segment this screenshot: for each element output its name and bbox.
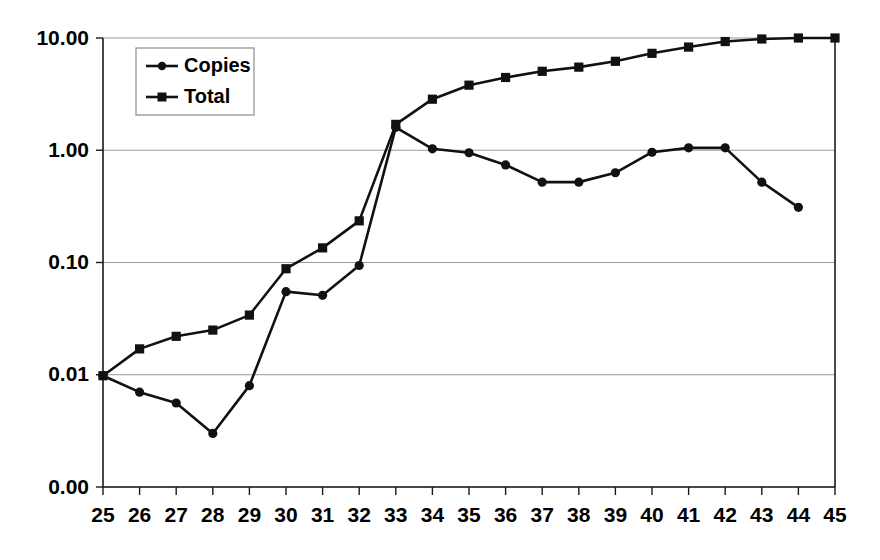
data-point-total-39 — [611, 57, 620, 66]
legend-label-copies: Copies — [184, 54, 251, 76]
x-tick-label-28: 28 — [201, 503, 225, 526]
x-tick-label-40: 40 — [640, 503, 663, 526]
data-point-total-37 — [538, 67, 547, 76]
x-tick-label-42: 42 — [714, 503, 737, 526]
data-point-total-27 — [172, 332, 181, 341]
data-point-total-36 — [501, 73, 510, 82]
data-point-copies-39 — [611, 168, 620, 177]
chart-legend: Copies Total — [136, 48, 254, 115]
data-point-copies-32 — [355, 261, 364, 270]
x-tick-label-31: 31 — [311, 503, 335, 526]
data-point-copies-34 — [428, 144, 437, 153]
y-tick-label-10.00: 10.00 — [36, 26, 89, 49]
x-tick-label-37: 37 — [531, 503, 554, 526]
x-tick-label-36: 36 — [494, 503, 517, 526]
data-point-copies-44 — [794, 203, 803, 212]
data-point-total-35 — [464, 81, 473, 90]
x-tick-label-45: 45 — [823, 503, 847, 526]
data-point-copies-29 — [245, 381, 254, 390]
data-point-copies-40 — [647, 148, 656, 157]
data-point-total-25 — [98, 371, 107, 380]
data-point-copies-38 — [574, 178, 583, 187]
data-point-total-42 — [721, 37, 730, 46]
x-tick-label-33: 33 — [384, 503, 407, 526]
x-tick-label-25: 25 — [91, 503, 115, 526]
legend-circle-marker-icon — [158, 62, 166, 70]
data-point-total-32 — [355, 216, 364, 225]
data-point-copies-28 — [208, 429, 217, 438]
data-point-copies-30 — [281, 287, 290, 296]
chart-background — [0, 0, 880, 560]
data-point-total-28 — [208, 325, 217, 334]
data-point-copies-41 — [684, 143, 693, 152]
data-point-copies-42 — [721, 143, 730, 152]
data-point-total-43 — [757, 34, 766, 43]
data-point-total-38 — [574, 63, 583, 72]
data-point-copies-36 — [501, 160, 510, 169]
x-tick-label-38: 38 — [567, 503, 591, 526]
x-tick-label-39: 39 — [604, 503, 627, 526]
data-point-total-30 — [281, 264, 290, 273]
data-point-copies-26 — [135, 388, 144, 397]
x-tick-label-29: 29 — [238, 503, 261, 526]
data-point-total-31 — [318, 243, 327, 252]
data-point-total-29 — [245, 310, 254, 319]
data-point-total-34 — [428, 95, 437, 104]
data-point-copies-43 — [757, 178, 766, 187]
x-tick-label-26: 26 — [128, 503, 151, 526]
data-point-total-41 — [684, 42, 693, 51]
data-point-total-44 — [794, 33, 803, 42]
line-chart: 10.001.000.100.010.00 252627282930313233… — [0, 0, 880, 560]
x-tick-label-30: 30 — [274, 503, 297, 526]
x-axis-tick-labels: 2526272829303132333435363738394041424344… — [91, 503, 847, 526]
x-tick-label-27: 27 — [165, 503, 188, 526]
data-point-copies-37 — [538, 178, 547, 187]
y-tick-label-1.00: 1.00 — [48, 138, 89, 161]
data-point-total-45 — [830, 33, 839, 42]
y-tick-label-0.01: 0.01 — [48, 362, 89, 385]
data-point-total-26 — [135, 344, 144, 353]
data-point-copies-31 — [318, 291, 327, 300]
data-point-total-33 — [391, 120, 400, 129]
data-point-copies-27 — [172, 398, 181, 407]
data-point-copies-35 — [464, 148, 473, 157]
y-tick-label-0.00: 0.00 — [48, 475, 89, 498]
y-tick-label-0.10: 0.10 — [48, 250, 89, 273]
x-tick-label-44: 44 — [787, 503, 811, 526]
x-tick-label-35: 35 — [457, 503, 481, 526]
x-tick-label-43: 43 — [750, 503, 773, 526]
legend-square-marker-icon — [158, 93, 167, 102]
legend-label-total: Total — [184, 85, 230, 107]
x-tick-label-41: 41 — [677, 503, 701, 526]
x-tick-label-34: 34 — [421, 503, 445, 526]
chart-container: 10.001.000.100.010.00 252627282930313233… — [0, 0, 880, 560]
data-point-total-40 — [647, 49, 656, 58]
x-tick-label-32: 32 — [348, 503, 371, 526]
